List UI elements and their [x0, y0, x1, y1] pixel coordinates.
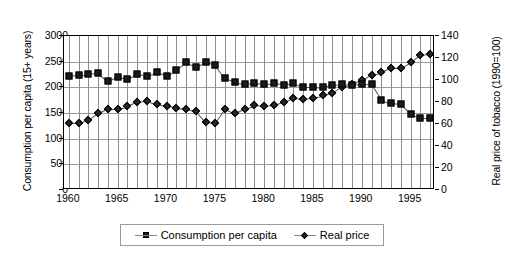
- gridline-vertical: [293, 36, 294, 188]
- y-tick-mark-left: [59, 189, 63, 190]
- gridline-vertical: [401, 36, 402, 188]
- gridline-vertical: [127, 36, 128, 188]
- gridline-horizontal: [64, 164, 433, 165]
- data-point: [124, 75, 131, 82]
- gridline-vertical: [430, 36, 431, 188]
- data-point: [173, 66, 180, 73]
- chart-legend: Consumption per capita Real price: [120, 224, 384, 246]
- data-point: [222, 75, 229, 82]
- data-point: [163, 72, 170, 79]
- data-point: [270, 80, 277, 87]
- x-tick-label: 1985: [300, 192, 323, 204]
- legend-label-real-price: Real price: [320, 229, 370, 241]
- y-tick-label-right: 0: [441, 183, 481, 195]
- y-tick-mark-right: [435, 35, 439, 36]
- square-marker-icon: [135, 232, 157, 238]
- data-point: [153, 100, 161, 108]
- gridline-vertical: [323, 36, 324, 188]
- y-tick-mark-right: [435, 123, 439, 124]
- data-point: [74, 119, 82, 127]
- data-point: [85, 71, 92, 78]
- data-point: [426, 49, 434, 57]
- gridline-vertical: [274, 36, 275, 188]
- data-point: [153, 69, 160, 76]
- gridline-vertical: [303, 36, 304, 188]
- gridline-horizontal: [64, 87, 433, 88]
- data-point: [162, 102, 170, 110]
- data-point: [299, 94, 307, 102]
- data-point: [407, 110, 414, 117]
- y-tick-label-right: 100: [441, 73, 481, 85]
- gridline-vertical: [254, 36, 255, 188]
- data-point: [95, 69, 102, 76]
- chart-container: Consumption per capita (15+ years) Real …: [0, 0, 505, 254]
- data-point: [134, 70, 141, 77]
- data-point: [309, 93, 317, 101]
- gridline-horizontal: [64, 139, 433, 140]
- data-point: [309, 83, 316, 90]
- gridline-vertical: [362, 36, 363, 188]
- gridline-vertical: [420, 36, 421, 188]
- data-point: [241, 81, 248, 88]
- x-tick-label: 1995: [398, 192, 421, 204]
- data-point: [270, 101, 278, 109]
- data-point: [319, 84, 326, 91]
- data-point: [427, 115, 434, 122]
- y-axis-right-title: Real price of tobacco (1990=100): [490, 21, 502, 201]
- gridline-vertical: [332, 36, 333, 188]
- data-point: [143, 97, 151, 105]
- data-point: [65, 119, 73, 127]
- data-point: [212, 62, 219, 69]
- data-point: [367, 70, 375, 78]
- data-point: [172, 103, 180, 111]
- y-tick-mark-right: [435, 145, 439, 146]
- y-tick-mark-right: [435, 57, 439, 58]
- data-point: [133, 98, 141, 106]
- data-point: [104, 78, 111, 85]
- data-point: [202, 59, 209, 66]
- data-point: [387, 64, 395, 72]
- data-point: [65, 73, 72, 80]
- data-point: [240, 104, 248, 112]
- data-point: [318, 91, 326, 99]
- y-tick-mark-right: [435, 101, 439, 102]
- data-point: [339, 81, 346, 88]
- gridline-vertical: [313, 36, 314, 188]
- data-point: [349, 82, 356, 89]
- data-point: [417, 115, 424, 122]
- data-point: [358, 80, 365, 87]
- x-tick-label: 1980: [251, 192, 274, 204]
- data-point: [114, 73, 121, 80]
- data-point: [289, 93, 297, 101]
- legend-label-consumption: Consumption per capita: [161, 229, 277, 241]
- y-tick-label-right: 140: [441, 29, 481, 41]
- data-point: [280, 81, 287, 88]
- y-tick-mark-right: [435, 167, 439, 168]
- x-tick-label: 1965: [105, 192, 128, 204]
- data-point: [231, 78, 238, 85]
- y-tick-label-right: 60: [441, 117, 481, 129]
- gridline-vertical: [372, 36, 373, 188]
- data-point: [290, 79, 297, 86]
- data-point: [368, 81, 375, 88]
- data-point: [329, 82, 336, 89]
- gridline-horizontal: [64, 62, 433, 63]
- y-tick-label-right: 20: [441, 161, 481, 173]
- gridline-vertical: [69, 36, 70, 188]
- gridline-vertical: [215, 36, 216, 188]
- y-tick-mark-right: [435, 79, 439, 80]
- data-point: [250, 101, 258, 109]
- data-point: [251, 79, 258, 86]
- gridline-vertical: [88, 36, 89, 188]
- gridline-vertical: [167, 36, 168, 188]
- data-point: [75, 71, 82, 78]
- data-point: [300, 83, 307, 90]
- y-tick-label-right: 80: [441, 95, 481, 107]
- x-tick-label: 1970: [154, 192, 177, 204]
- legend-item-real-price: Real price: [294, 229, 370, 241]
- data-point: [231, 109, 239, 117]
- gridline-vertical: [176, 36, 177, 188]
- data-point: [260, 102, 268, 110]
- gridline-vertical: [381, 36, 382, 188]
- gridline-vertical: [284, 36, 285, 188]
